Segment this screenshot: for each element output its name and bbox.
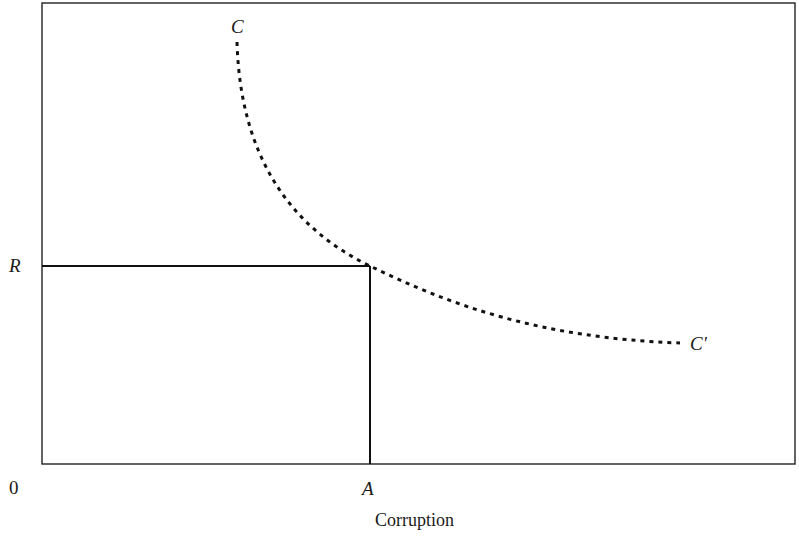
y-tick-label: R xyxy=(8,255,21,276)
figure: C C' R A 0 Corruption xyxy=(0,0,799,536)
x-axis-label: Corruption xyxy=(375,510,454,530)
curve-start-label: C xyxy=(231,16,244,37)
origin-label: 0 xyxy=(9,477,19,498)
x-tick-label: A xyxy=(360,478,374,499)
curve-end-label: C' xyxy=(690,333,708,354)
plot-frame xyxy=(42,3,795,464)
curve-c-c-prime xyxy=(237,42,680,343)
